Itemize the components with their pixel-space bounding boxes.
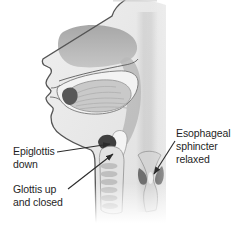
crop-artifact-line [113, 0, 157, 2]
label-line: down [13, 158, 55, 171]
label-line: Epiglottis [13, 145, 55, 158]
label-line: Glottis up [13, 183, 63, 196]
tracheal-ring [101, 171, 118, 177]
label-esophageal-sphincter-relaxed: Esophageal sphincter relaxed [176, 127, 230, 165]
label-line: relaxed [176, 153, 230, 166]
label-line: and closed [13, 196, 63, 209]
label-glottis-up-and-closed: Glottis up and closed [13, 183, 63, 209]
swallowing-diagram: Epiglottis down Glottis up and closed Es… [0, 0, 240, 233]
label-line: sphincter [176, 140, 230, 153]
label-epiglottis-down: Epiglottis down [13, 145, 55, 171]
tracheal-ring [101, 163, 118, 169]
label-line: Esophageal [176, 127, 230, 140]
